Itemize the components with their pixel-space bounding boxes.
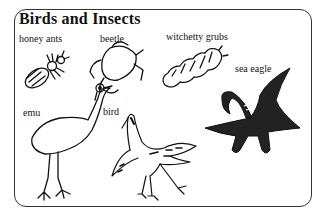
- honey-ant-icon: [22, 51, 69, 92]
- emu-icon: [32, 86, 112, 200]
- beetle-icon: [90, 42, 143, 100]
- bird-icon: [112, 114, 196, 200]
- sea-eagle-icon: [205, 68, 300, 153]
- animal-drawings: [0, 0, 326, 224]
- witchetty-grub-icon: [163, 46, 228, 87]
